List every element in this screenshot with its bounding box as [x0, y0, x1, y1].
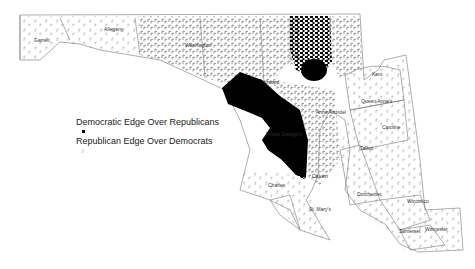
county-label: Queen Anne's — [361, 98, 393, 104]
county-label: Calvert — [312, 173, 328, 179]
maryland-election-map: Garrett Allegany Washington Howard Anne … — [0, 0, 475, 269]
county-label: Dorchester — [357, 191, 382, 197]
county-label: Prince George's — [266, 131, 302, 137]
county-label: Wicomico — [407, 198, 429, 204]
legend: Democratic Edge Over Republicans Republi… — [76, 116, 219, 155]
county-label: Charles — [268, 182, 286, 188]
county-label: Allegany — [104, 26, 124, 32]
dem-marker-icon — [82, 130, 85, 133]
legend-dem-label: Democratic Edge Over Republicans — [76, 117, 219, 127]
county-label: Caroline — [382, 124, 401, 130]
rep-marker-icon: / — [82, 147, 219, 155]
county-label: St. Mary's — [309, 206, 332, 212]
county-label: Kent — [372, 71, 383, 77]
county-label: Garrett — [34, 37, 50, 43]
county-label: Howard — [262, 79, 279, 85]
county-label: Anne Arundel — [316, 109, 346, 115]
map-canvas: Garrett Allegany Washington Howard Anne … — [0, 0, 475, 269]
county-label: Somerset — [399, 228, 421, 234]
legend-rep-label: Republican Edge Over Democrats — [76, 136, 213, 146]
county-label: Washington — [185, 42, 211, 48]
county-label: Talbot — [360, 145, 374, 151]
county-label: Worcester — [425, 226, 448, 232]
